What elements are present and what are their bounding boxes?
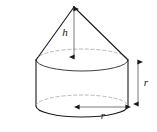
cone-apex-point	[73, 6, 75, 8]
figure-background	[0, 0, 157, 132]
radius-label-r: r	[101, 109, 106, 121]
side-label-r: r	[144, 76, 149, 88]
geometry-diagram-canvas: h r r	[0, 0, 157, 132]
height-label-h: h	[62, 26, 68, 38]
cone-on-cylinder-figure: h r r	[0, 0, 157, 132]
